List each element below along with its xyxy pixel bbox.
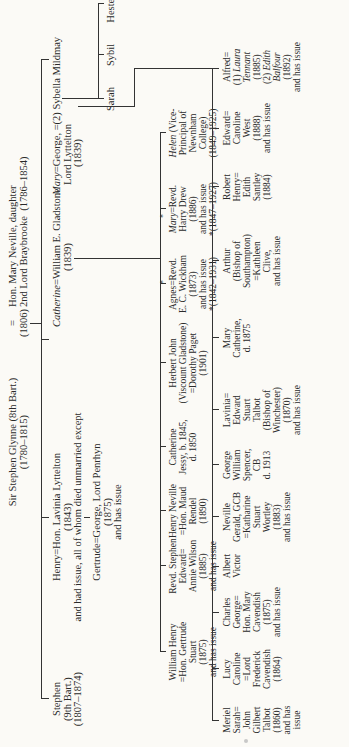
text-line: Robert <box>222 159 232 215</box>
gladstone-child-agnes: * Agnes=Revd. E. C. Wickham (1873) and h… <box>160 244 218 324</box>
text-line: Victor <box>232 545 242 587</box>
lyttelton-connector2 <box>134 68 212 69</box>
text-line: Alfred= <box>222 37 232 97</box>
family-tree-page: Sir Stephen Glynne (8th Bart.) (1780–181… <box>0 0 349 747</box>
drop-line <box>98 98 104 99</box>
drop-line <box>160 565 166 566</box>
text-line: and has issue <box>292 37 302 97</box>
text-line: Edward <box>232 376 242 444</box>
drop-line <box>212 516 219 517</box>
child-catherine: Catherine=William E. Gladstone (1839) <box>52 187 73 327</box>
lyttelton-child-george-william: George William Spencer, CB d. 1913 <box>222 439 272 491</box>
text-line: d. 1850 <box>188 409 198 485</box>
text-line: Clive, <box>262 221 272 301</box>
text-line: and has issue <box>208 612 218 692</box>
text-line: =Dorothy Paget <box>188 313 198 413</box>
text-line: Agnes=Revd. <box>168 244 178 324</box>
child-stephen: Stephen (9th Bart.) (1807–1874) <box>52 659 84 739</box>
text-line: =Hon. Maud <box>178 475 188 547</box>
text-line: (1) Laura <box>232 37 242 97</box>
text-line: Wortley <box>262 483 272 551</box>
text-line: Catherine, <box>232 308 242 368</box>
drop-line <box>212 566 219 567</box>
text-line: issue <box>292 697 302 743</box>
root-husband-dates: (1780–1815) <box>19 327 30 557</box>
text-line: (1875) <box>262 581 272 643</box>
text-line: and has issue <box>113 427 124 597</box>
text-line: Spencer, <box>242 439 252 491</box>
text-line: and has issue <box>272 581 282 643</box>
text-line: Caroline <box>232 641 242 697</box>
text-line: =Lord <box>242 641 252 697</box>
text-line: Charles <box>222 581 232 643</box>
text-line: Winchester) <box>272 376 282 444</box>
text-line: =Kathleen <box>252 221 262 301</box>
text-line: d. 1913 <box>262 439 272 491</box>
text-line: Santley <box>252 159 262 215</box>
child-hester: Hester <box>106 0 117 29</box>
gladstone-child-william-henry: William Henry =Hon. Gertrude Stuart (187… <box>168 612 218 692</box>
text-line: and has issue <box>292 376 302 444</box>
text-line: (1875) <box>198 612 208 692</box>
text-line: (1892) <box>282 37 292 97</box>
text-line: Harry Drew <box>178 171 188 247</box>
root-wife-line2: 2nd Lord Braybrooke (1786–1854) <box>19 77 30 307</box>
drop-line <box>98 3 104 4</box>
drop-line <box>160 446 166 447</box>
text-line: Catherine <box>168 409 178 485</box>
lyttelton-children-bar <box>212 68 213 721</box>
lyttelton-child-lavinia: Lavinia= Edward Stuart Talbot (Bishop of… <box>222 376 302 444</box>
text-line: Lavinia= <box>222 376 232 444</box>
text-line: and has issue <box>198 244 208 324</box>
marriage-year: (1806) <box>19 303 30 343</box>
asterisk: * <box>160 244 168 324</box>
text-line: d. 1875 <box>242 308 252 368</box>
text-line: Arthur <box>222 221 232 301</box>
root-wife: Hon. Mary Neville, daughter 2nd Lord Bra… <box>8 77 29 307</box>
text-line: Stuart <box>242 376 252 444</box>
gladstone-descent <box>74 258 160 259</box>
drop-line <box>41 517 49 518</box>
lyttelton-descent <box>78 106 134 107</box>
drop-line <box>212 720 219 721</box>
text-line: *(1847–1927) <box>208 171 218 247</box>
lyttelton-child-lucy: Lucy Caroline =Lord Frederick Cavendish … <box>222 641 282 697</box>
root-husband: Sir Stephen Glynne (8th Bart.) (1780–181… <box>8 327 29 557</box>
text-line: and has <box>282 697 292 743</box>
text-line: (1885) <box>252 37 262 97</box>
text-line: Balfour <box>272 37 282 97</box>
drop-line <box>212 612 219 613</box>
text-line: Newnham <box>188 95 198 171</box>
text-line: (Bishop of <box>232 221 242 301</box>
lyttelton-child-alfred: Alfred= (1) Laura Tennant (1885) (2) Edi… <box>222 37 302 97</box>
gladstone-child-mary: * Mary=Revd. Harry Drew (1886) and has i… <box>160 171 218 247</box>
drop-line <box>160 651 166 652</box>
lyttelton-child-edward: Edward= Caroline West (1888) and has iss… <box>222 97 272 159</box>
text-line: Henry= <box>232 159 242 215</box>
child-gertrude: Gertrude=George, Lord Penrhyn (1875) and… <box>92 427 124 597</box>
text-line: Helen (Vice- <box>168 95 178 171</box>
gladstone-child-henry-neville: Henry Neville =Hon. Maud Rendel (1890) <box>168 475 208 547</box>
second-marriage-line <box>62 98 98 99</box>
text-line: Henry=Hon. Lavinia Lyttelton <box>52 407 63 627</box>
text-line: Rendel <box>188 475 198 547</box>
text-line: Herbert John <box>168 313 178 413</box>
drop-line <box>212 464 219 465</box>
text-line: (1860) <box>272 697 282 743</box>
text-line: Caroline <box>232 97 242 159</box>
lyttelton-child-robert: Robert Henry= Edith Santley (1884) <box>222 159 272 215</box>
text-line: (1873) <box>188 244 198 324</box>
lyttelton-child-mary-catherine: Mary Catherine, d. 1875 <box>222 308 252 368</box>
text-line: E. C. Wickham <box>178 244 188 324</box>
text-line: (1886) <box>188 171 198 247</box>
text-line: (1870) <box>282 376 292 444</box>
drop-line <box>41 698 49 699</box>
asterisk: * <box>160 171 168 247</box>
text-line: Frederick <box>252 641 262 697</box>
text-line: Henry Neville <box>168 475 178 547</box>
text-line: Neville <box>222 483 232 551</box>
marriage-sign: = <box>8 303 19 343</box>
text-line: (1901) <box>198 313 208 413</box>
text-line: (1864) <box>272 641 282 697</box>
drop-line <box>212 409 219 410</box>
